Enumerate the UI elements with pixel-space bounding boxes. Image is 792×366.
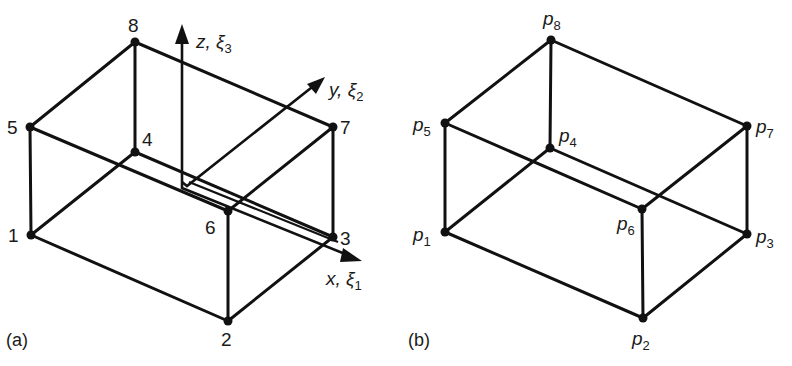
point-p8 [547, 36, 556, 45]
node-4 [131, 148, 140, 157]
point-p1 [441, 228, 450, 237]
node-label-5: 5 [7, 117, 18, 138]
point-label-p2: p2 [631, 328, 650, 353]
point-label-p4: p4 [558, 125, 577, 150]
point-label-p8: p8 [542, 8, 561, 33]
point-p2 [639, 314, 648, 323]
node-label-3: 3 [340, 228, 351, 249]
node-label-8: 8 [128, 15, 139, 36]
node-label-7: 7 [340, 117, 351, 138]
point-p7 [743, 122, 752, 131]
panel-a-caption: (a) [6, 330, 28, 350]
y-arrow-head [307, 77, 325, 94]
point-p3 [743, 230, 752, 239]
node-label-4: 4 [142, 129, 153, 150]
node-6 [224, 207, 233, 216]
panel-a: 1 2 3 4 5 6 7 8 z, ξ3 y, ξ2 x, ξ1 [6, 15, 363, 350]
node-label-2: 2 [221, 329, 232, 350]
node-7 [329, 123, 338, 132]
node-2 [224, 317, 233, 326]
point-label-p3: p3 [755, 226, 774, 251]
node-1 [27, 231, 36, 240]
z-arrow-head [175, 24, 189, 44]
point-p4 [546, 144, 555, 153]
point-label-p6: p6 [616, 213, 635, 238]
axis-labels: z, ξ3 y, ξ2 x, ξ1 [195, 31, 363, 293]
panel-b: p1 p2 p3 p4 p5 p6 p7 p8 (b) [408, 8, 774, 353]
y-axis-label: y, ξ2 [327, 79, 363, 104]
z-axis-label: z, ξ3 [195, 31, 232, 56]
panel-b-caption: (b) [408, 330, 430, 350]
x-arrow-head [340, 248, 362, 262]
node-label-1: 1 [8, 225, 19, 246]
node-5 [26, 123, 35, 132]
element-edges-b [445, 40, 747, 318]
point-label-p1: p1 [412, 224, 431, 249]
point-p6 [638, 205, 647, 214]
node-8 [131, 38, 140, 47]
point-label-p5: p5 [412, 114, 431, 139]
element-nodes-b [441, 36, 752, 323]
point-label-p7: p7 [755, 116, 774, 141]
hexahedral-element-figure: 1 2 3 4 5 6 7 8 z, ξ3 y, ξ2 x, ξ1 [0, 0, 792, 366]
point-p5 [441, 119, 450, 128]
node-3 [329, 233, 338, 242]
figure-canvas: 1 2 3 4 5 6 7 8 z, ξ3 y, ξ2 x, ξ1 [0, 0, 792, 366]
y-axis-arrow [182, 84, 316, 186]
x-axis-label: x, ξ1 [325, 268, 362, 293]
node-label-6: 6 [205, 217, 216, 238]
